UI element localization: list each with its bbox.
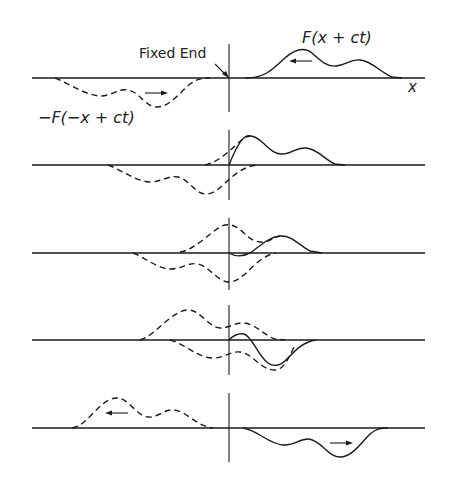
string-displacement-2 xyxy=(229,136,345,165)
reflected-wave-label: −F(−x + ct) xyxy=(38,108,135,127)
panel-4 xyxy=(32,305,425,375)
panel-3 xyxy=(32,218,425,290)
arrowhead-left-icon xyxy=(289,59,296,64)
arrowhead-right-icon xyxy=(346,441,353,446)
incident-wave-label: F(x + ct) xyxy=(302,28,372,47)
arrowhead-right-icon xyxy=(161,91,168,96)
image-pulse-curve xyxy=(55,78,210,107)
image-pulse-5 xyxy=(72,398,213,428)
image-component-2 xyxy=(108,165,258,194)
fixed-end-label: Fixed End xyxy=(139,45,206,61)
panel-5 xyxy=(32,393,425,462)
image-component-4 xyxy=(140,310,285,340)
reflected-pulse-5 xyxy=(243,428,388,457)
x-axis-label: x xyxy=(407,78,417,96)
incident-component-2 xyxy=(205,136,250,165)
panel-1: Fixed End F(x + ct) −F(−x + ct) x xyxy=(32,28,425,127)
incident-component-3 xyxy=(180,225,280,252)
image-component-3 xyxy=(133,253,276,282)
incident-pulse-curve xyxy=(245,50,402,78)
wave-reflection-diagram: Fixed End F(x + ct) −F(−x + ct) x xyxy=(0,0,454,486)
arrowhead-left-icon xyxy=(105,411,112,416)
panel-2 xyxy=(32,130,425,200)
